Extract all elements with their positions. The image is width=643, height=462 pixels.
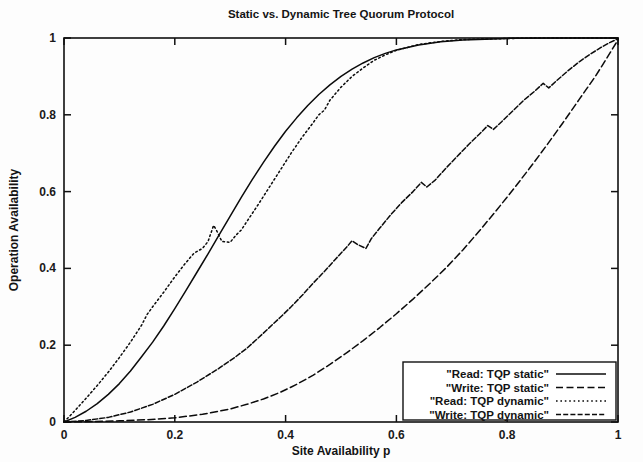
y-tick-label: 0.8	[39, 108, 56, 122]
x-axis-title: Site Availability p	[292, 444, 390, 458]
legend-label-1: "Write: TQP static"	[446, 382, 549, 394]
x-tick-label: 0.6	[388, 428, 405, 442]
plot-canvas: Static vs. Dynamic Tree Quorum Protocol …	[0, 0, 643, 462]
chart-title: Static vs. Dynamic Tree Quorum Protocol	[228, 8, 454, 20]
y-axis-title: Operation Availability	[7, 168, 21, 291]
x-tick-label: 1	[615, 428, 622, 442]
chart-figure: Static vs. Dynamic Tree Quorum Protocol …	[0, 0, 643, 462]
legend-label-3: "Write: TQP dynamic"	[429, 409, 549, 421]
legend-label-0: "Read: TQP static"	[446, 368, 549, 380]
x-tick-label: 0.4	[277, 428, 294, 442]
legend-label-2: "Read: TQP dynamic"	[430, 395, 549, 407]
y-tick-label: 0	[49, 415, 56, 429]
x-tick-label: 0.2	[166, 428, 183, 442]
x-tick-label: 0.8	[499, 428, 516, 442]
y-tick-label: 0.6	[39, 185, 56, 199]
chart-legend: "Read: TQP static""Write: TQP static""Re…	[403, 362, 616, 421]
x-tick-label: 0	[61, 428, 68, 442]
y-tick-label: 0.2	[39, 338, 56, 352]
y-tick-label: 1	[49, 31, 56, 45]
y-tick-label: 0.4	[39, 261, 56, 275]
